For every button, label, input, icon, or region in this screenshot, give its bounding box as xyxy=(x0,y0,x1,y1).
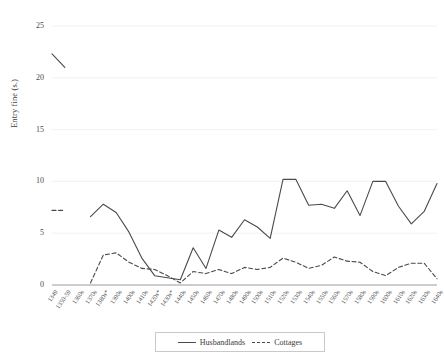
legend-swatch-solid-icon xyxy=(178,342,196,343)
legend-label-husbandlands: Husbandlands xyxy=(200,338,245,347)
legend-item-husbandlands: Husbandlands xyxy=(178,338,245,347)
series-line-cottages xyxy=(91,253,438,283)
y-tick-label: 10 xyxy=(22,177,44,185)
y-tick-label: 15 xyxy=(22,126,44,134)
series-line-husbandlands xyxy=(52,54,65,67)
y-tick-label: 25 xyxy=(22,22,44,30)
y-tick-label: 0 xyxy=(22,281,44,289)
series-line-husbandlands xyxy=(91,179,438,279)
legend-swatch-dashed-icon xyxy=(252,342,270,343)
legend-label-cottages: Cottages xyxy=(274,338,302,347)
y-tick-label: 20 xyxy=(22,74,44,82)
legend-item-cottages: Cottages xyxy=(252,338,302,347)
y-axis-title: Entry fine (s.) xyxy=(9,8,19,128)
chart-legend: Husbandlands Cottages xyxy=(155,332,325,352)
y-tick-label: 5 xyxy=(22,229,44,237)
